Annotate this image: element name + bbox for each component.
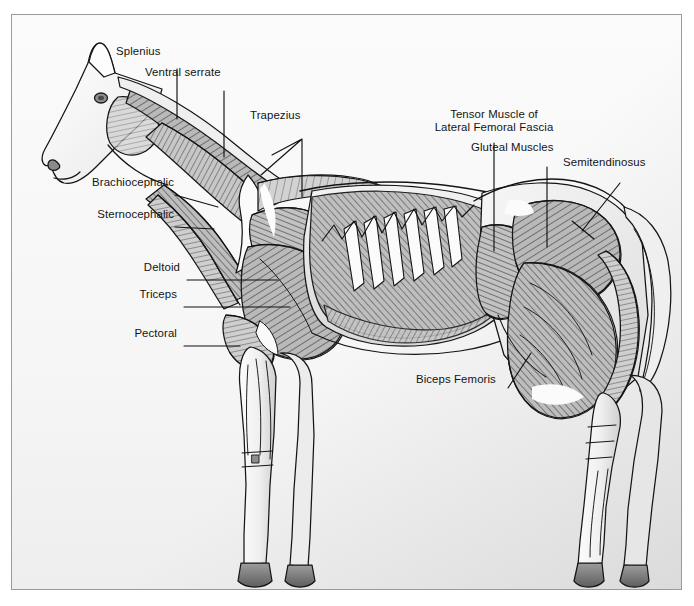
label-deltoid: Deltoid [22,261,180,274]
knee-marking [252,455,259,463]
label-trapezius: Trapezius [250,109,301,122]
horse-anatomy-illustration [12,15,681,589]
label-splenius: Splenius [116,45,161,58]
hind-hoof-far [620,565,649,587]
fore-hoof-far [285,565,315,587]
label-brachiocephalic: Brachiocephalic [22,176,174,189]
label-pectoral: Pectoral [22,327,177,340]
label-ventral-serrate: Ventral serrate [145,66,221,79]
label-biceps-femoris: Biceps Femoris [416,373,496,386]
label-triceps: Triceps [22,288,177,301]
label-sternocephalic: Sternocephalic [22,208,174,221]
label-semitendinosus: Semitendinosus [563,156,645,169]
label-gluteal: Gluteal Muscles [471,141,554,154]
label-tensor-fascia-line1: Tensor Muscle of [412,108,576,121]
hind-hoof-near [574,563,604,587]
fore-hoof-near [238,563,272,587]
illustration-frame: Splenius Ventral serrate Trapezius Tenso… [11,14,682,590]
label-tensor-fascia-line2: Lateral Femoral Fascia [402,121,586,134]
anatomy-plate: Splenius Ventral serrate Trapezius Tenso… [0,0,694,606]
